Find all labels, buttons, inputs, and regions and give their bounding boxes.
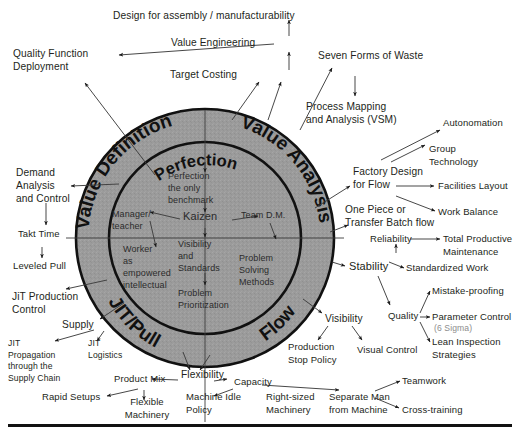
core-visibility-standards: Visibility and Standards (178, 238, 220, 274)
node-stability: Stability (349, 259, 388, 273)
bottom-divider (8, 424, 512, 427)
node-flexibility: Flexibility (181, 368, 224, 381)
node-leveled-pull: Leveled Pull (13, 260, 66, 273)
node-reliability: Reliability (370, 233, 412, 246)
core-manager-teacher: Manager/ teacher (112, 208, 151, 232)
core-problem-prioritization: Problem Prioritization (178, 287, 229, 311)
node-rapid-setups: Rapid Setups (42, 391, 100, 404)
node-visibility: Visibility (325, 312, 363, 325)
node-takt-time: Takt Time (18, 228, 60, 241)
node-quality: Quality (388, 310, 418, 323)
node-total-productive-maintenance: Total Productive Maintenance (443, 233, 512, 258)
node-flexible-machinery: Flexible Machinery (118, 396, 176, 421)
node-visual-control: Visual Control (357, 344, 417, 357)
node-teamwork: Teamwork (402, 375, 446, 388)
lean-wheel-diagram: Value Definition Value Analysis JIT/Pull… (0, 0, 520, 436)
node-work-balance: Work Balance (438, 206, 498, 219)
node-autonomation: Autonomation (443, 117, 503, 130)
ring-label-value-analysis: Value Analysis (238, 111, 336, 224)
node-seven-forms-of-waste: Seven Forms of Waste (318, 49, 423, 62)
node-factory-design-for-flow: Factory Design for Flow (353, 165, 423, 191)
node-quality-function-deployment: Quality Function Deployment (13, 47, 88, 73)
node-design-for-assembly: Design for assembly / manufacturability (113, 9, 295, 22)
node-cross-training: Cross-training (402, 404, 463, 417)
node-capacity: Capacity (234, 376, 272, 389)
node-production-stop-policy: Production Stop Policy (288, 341, 337, 366)
node-target-costing: Target Costing (170, 68, 237, 81)
node-demand-analysis-control: Demand Analysis and Control (16, 166, 70, 205)
node-lean-inspection-strategies: Lean Inspection Strategies (432, 336, 501, 361)
node-group-technology: Group Technology (429, 143, 478, 168)
node-parameter-control: Parameter Control (432, 311, 511, 324)
node-mistake-proofing: Mistake-proofing (432, 285, 504, 298)
core-team-dm: Team D.M. (241, 209, 285, 221)
node-jit-production-control: JiT Production Control (12, 290, 78, 316)
node-supply: Supply (62, 318, 94, 331)
node-standardized-work: Standardized Work (406, 262, 488, 275)
node-process-mapping-vsm: Process Mapping and Analysis (VSM) (306, 100, 397, 126)
core-worker-empowered: Worker as empowered intellectual (123, 243, 171, 291)
node-six-sigma: (6 Sigma) (434, 323, 472, 335)
node-one-piece-transfer-batch: One Piece or Transfer Batch flow (345, 203, 434, 229)
node-right-sized-machinery: Right-sized Machinery (266, 391, 315, 416)
node-value-engineering: Value Engineering (171, 36, 255, 49)
node-product-mix: Product Mix (114, 373, 165, 386)
node-separate-man-from-machine: Separate Man from Machine (329, 391, 390, 416)
node-jit-logistics: JIT Logistics (88, 338, 122, 361)
core-problem-solving-methods: Problem Solving Methods (239, 252, 274, 288)
core-kaizen: Kaizen (183, 210, 217, 222)
ring-label-flow: Flow (255, 301, 299, 345)
core-perfection-benchmark: Perfection the only benchmark (168, 170, 213, 206)
node-facilities-layout: Facilities Layout (438, 180, 508, 193)
node-jit-propagation: JIT Propagation through the Supply Chain (8, 338, 60, 384)
node-machine-idle-policy: Machine Idle Policy (186, 391, 241, 416)
